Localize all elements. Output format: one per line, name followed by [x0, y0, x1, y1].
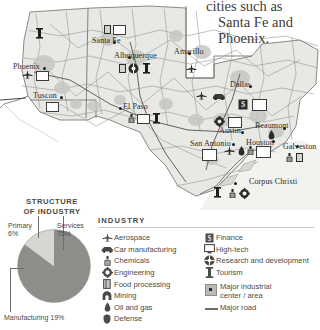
legend-label-major-road: Major road	[220, 303, 256, 312]
map-icon-high-tech-phoenix	[36, 71, 49, 81]
industry-legend: INDUSTRY Aerospace Car manufacturing	[98, 216, 316, 328]
map-icon-food-processing-santa-fe	[104, 25, 111, 34]
body-text-line-3: Phoenix.	[196, 30, 320, 46]
map-icon-high-tech-austin	[228, 117, 242, 128]
pie-label-manufacturing: Manufacturing 19%	[4, 314, 64, 322]
legend-label-finance: Finance	[216, 233, 243, 242]
map-icon-engineering-austin	[214, 116, 225, 127]
body-text-line-1: cities such as	[196, 0, 320, 14]
legend-title: INDUSTRY	[98, 216, 316, 227]
city-label-corpus-christi: Corpus Christi	[249, 177, 297, 186]
map-icon-oil-and-gas-houston	[238, 146, 245, 156]
legend-item-high-tech: High-tech	[202, 244, 318, 256]
legend-item-food-processing: Food processing	[100, 278, 200, 290]
major-industrial-center-icon	[202, 282, 220, 296]
pie-label-services: Services 75%	[57, 222, 84, 239]
legend-item-engineering: Engineering	[100, 267, 200, 279]
map-icon-aerospace-houston	[224, 146, 235, 155]
legend-label-aerospace: Aerospace	[114, 233, 150, 242]
pie-label-primary-name: Primary	[8, 222, 32, 230]
legend-item-research-development: Research and development	[202, 255, 318, 267]
legend-item-chemicals: Chemicals	[100, 255, 200, 267]
map-icon-tourism-corpus-christi	[213, 187, 222, 198]
map-icon-oil-and-gas-beaumont	[268, 130, 275, 140]
high-tech-icon	[202, 244, 216, 254]
mining-icon	[100, 291, 114, 300]
map-icon-high-tech-houston	[256, 146, 271, 158]
structure-title-line-1: STRUCTURE	[6, 197, 98, 207]
map-icon-chemicals-galveston	[286, 153, 293, 162]
legend-item-mining: Mining	[100, 290, 200, 302]
map-icon-high-tech-san-antonio	[202, 149, 217, 161]
map-icon-high-tech-tuscon	[46, 102, 59, 112]
legend-label-defense: Defense	[114, 314, 142, 323]
legend-label-tourism: Tourism	[216, 268, 243, 277]
map-icon-food-processing-albuquerque	[119, 64, 126, 73]
car-manufacturing-icon	[100, 246, 114, 253]
city-label-santa-fe: Santa Fe	[92, 36, 121, 45]
map-icon-chemicals-corpus-christi	[229, 189, 236, 198]
city-label-dallas: Dallas	[230, 80, 251, 89]
map-icon-high-tech-el-paso	[137, 114, 150, 124]
city-label-tuscon: Tuscon	[33, 91, 57, 100]
map-icon-aerospace-phoenix	[22, 70, 33, 79]
engineering-icon	[100, 267, 114, 278]
map-icon-chemicals-houston	[247, 146, 254, 155]
body-text: cities such as Santa Fe and Phoenix.	[196, 0, 320, 46]
legend-item-car-manufacturing: Car manufacturing	[100, 244, 200, 256]
pie-label-services-value: 75%	[57, 230, 84, 238]
pie-label-primary: Primary 6%	[8, 222, 32, 239]
legend-label-mining: Mining	[114, 291, 136, 300]
legend-label-engineering: Engineering	[114, 268, 155, 277]
map-icon-high-tech-dallas	[252, 99, 267, 111]
map-icon-tourism-el-paso	[152, 113, 161, 124]
legend-label-high-tech: High-tech	[216, 245, 249, 254]
food-processing-icon	[100, 279, 114, 289]
finance-icon: $	[202, 233, 216, 243]
legend-label-oil-and-gas: Oil and gas	[114, 303, 152, 312]
legend-label-industrial-center-line-2: center / area	[220, 291, 272, 300]
map-icon-tourism-phoenix	[35, 28, 44, 39]
map-icon-engineering-corpus-christi	[239, 188, 250, 199]
pie-leader-manufacturing-h	[10, 268, 24, 269]
research-development-icon	[202, 255, 216, 266]
pie-leader-manufacturing-v	[10, 268, 11, 312]
legend-item-industrial-center: Major industrial center / area	[202, 282, 318, 300]
city-label-amarillo: Amarillo	[174, 47, 204, 56]
map-icon-aerospace-dallas	[196, 91, 207, 100]
structure-of-industry-chart	[8, 228, 92, 312]
city-label-galveston: Galveston	[283, 142, 316, 151]
map-icon-tourism-albuquerque	[142, 63, 151, 74]
major-road-icon	[202, 306, 220, 309]
chemicals-icon	[100, 256, 114, 266]
city-label-el-paso: El Paso	[123, 102, 148, 111]
svg-text:$: $	[241, 99, 245, 109]
map-icon-aerospace-amarillo	[186, 64, 197, 73]
legend-label-industrial-center-line-1: Major industrial	[220, 282, 272, 291]
legend-divider	[98, 227, 314, 228]
city-label-albuquerque: Albuquerque	[114, 51, 157, 60]
map-icon-car-manufacturing-dallas	[212, 93, 226, 100]
legend-column-right: $ Finance High-tech Research and develop…	[202, 232, 318, 312]
legend-item-tourism: Tourism	[202, 267, 318, 279]
legend-label-industrial-center: Major industrial center / area	[220, 282, 272, 300]
map-icon-research-development-albuquerque	[128, 63, 139, 74]
legend-label-food-processing: Food processing	[114, 280, 170, 289]
map-icon-food-processing-galveston	[296, 153, 303, 162]
tourism-icon	[202, 267, 216, 278]
legend-item-finance: $ Finance	[202, 232, 318, 244]
pie-label-services-name: Services	[57, 222, 84, 230]
aerospace-icon	[100, 233, 114, 242]
legend-label-research-development: Research and development	[216, 256, 309, 265]
legend-column-left: Aerospace Car manufacturing Chemicals En…	[100, 232, 200, 325]
legend-item-defense: Defense	[100, 313, 200, 325]
pie-graphic	[16, 228, 92, 304]
legend-label-car-manufacturing: Car manufacturing	[114, 245, 176, 254]
map-icon-finance-dallas: $	[238, 99, 248, 110]
svg-text:$: $	[207, 234, 211, 243]
structure-of-industry-title: STRUCTURE OF INDUSTRY	[6, 197, 98, 216]
city-label-beaumont: Beaumont	[255, 121, 289, 130]
map-icon-high-tech-santa-fe	[113, 25, 126, 35]
oil-and-gas-icon	[100, 302, 114, 312]
legend-item-major-road: Major road	[202, 303, 318, 312]
